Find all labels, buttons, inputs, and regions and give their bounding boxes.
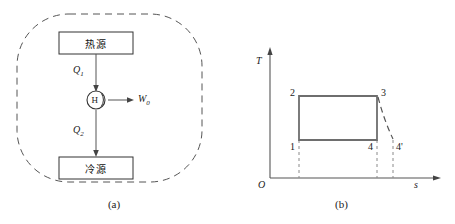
expansion-path-3-to-4prime (378, 97, 393, 139)
point-label-2: 2 (290, 88, 295, 98)
figure-b-ts-diagram: T s O 1 2 3 4 4' (b) (228, 0, 455, 224)
cycle-path-1-2-3-4 (299, 96, 377, 140)
w0-subscript: 0 (146, 99, 150, 107)
figure-b-caption: (b) (228, 198, 455, 210)
t-axis-label: T (256, 56, 262, 66)
q2-label: Q2 (73, 125, 84, 138)
point-label-4: 4 (368, 142, 373, 152)
q1-subscript: 1 (80, 70, 84, 78)
q1-label: Q1 (73, 65, 84, 78)
q2-subscript: 2 (80, 130, 84, 138)
q2-arrow-head (93, 150, 99, 157)
figure-a-heat-engine-schematic: 热源 冷源 Q1 Q2 W0 H (a) (0, 0, 228, 224)
engine-letter-label: H (92, 96, 99, 105)
w0-label: W0 (138, 94, 150, 107)
figure-b-canvas (228, 0, 455, 224)
t-axis-arrow-head (267, 47, 272, 55)
hot-reservoir-label: 热源 (59, 36, 133, 51)
point-label-1: 1 (290, 142, 295, 152)
figure-a-caption: (a) (0, 198, 228, 210)
point-label-3: 3 (381, 88, 386, 98)
figure-a-canvas (0, 0, 228, 224)
origin-label: O (258, 180, 265, 190)
point-label-4prime: 4' (396, 142, 403, 152)
cold-reservoir-label: 冷源 (59, 161, 133, 176)
s-axis-arrow-head (433, 175, 441, 180)
w0-arrow-head (127, 97, 134, 103)
s-axis-label: s (414, 180, 418, 190)
